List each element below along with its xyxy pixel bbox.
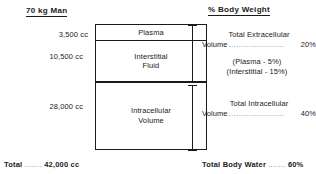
- extracellular-description-title: Total Extracellular: [202, 30, 316, 40]
- intracellular-leader-dots: ......................: [229, 109, 300, 118]
- compartment-intracellular-label: Intracellular Volume: [131, 106, 171, 125]
- compartment-interstitial-line2: Fluid: [143, 61, 160, 70]
- total-body-water-value: 60%: [288, 160, 304, 169]
- left-column-heading: 70 kg Man: [26, 6, 67, 17]
- compartment-interstitial-line1: Interstitial: [134, 52, 167, 61]
- bracket-stem: [192, 85, 193, 151]
- bracket-bottom-cap: [188, 150, 197, 151]
- total-volume-label: Total: [4, 160, 22, 169]
- intracellular-percent-row: Volume ...................... 40%: [202, 109, 316, 119]
- compartment-plasma-label: Plasma: [138, 28, 164, 37]
- extracellular-percent-label: Volume: [202, 40, 228, 50]
- total-volume-row: Total ....... 42,000 cc: [4, 160, 79, 169]
- extracellular-percent-row: Volume ...................... 20%: [202, 40, 316, 50]
- extracellular-description: Total Extracellular Volume .............…: [202, 30, 316, 50]
- compartment-intracellular-line1: Intracellular: [131, 106, 171, 115]
- bracket-bottom-cap: [188, 81, 197, 82]
- total-volume-leader-dots: .......: [24, 161, 42, 168]
- intracellular-volume-label: 28,000 cc: [13, 102, 83, 111]
- plasma-percent-note: (Plasma - 5%): [198, 57, 316, 67]
- total-body-water-row: Total Body Water ....... 60%: [202, 160, 304, 169]
- interstitial-volume-label: 10,500 cc: [13, 52, 83, 61]
- intracellular-percent-label: Volume: [202, 109, 228, 119]
- bracket-stem: [192, 25, 193, 82]
- total-volume-value: 42,000 cc: [44, 160, 79, 169]
- extracellular-leader-dots: ......................: [229, 40, 300, 49]
- total-body-water-label: Total Body Water: [202, 160, 266, 169]
- total-body-water-leader-dots: .......: [268, 161, 286, 168]
- interstitial-percent-note: (Interstitial - 15%): [198, 67, 316, 77]
- intracellular-percent-value: 40%: [301, 109, 316, 119]
- plasma-volume-label: 3,500 cc: [18, 30, 88, 39]
- compartment-intracellular-line2: Volume: [138, 116, 164, 125]
- extracellular-range-bracket: [188, 25, 197, 82]
- compartment-interstitial-label: Interstitial Fluid: [134, 52, 167, 71]
- right-column-heading: % Body Weight: [208, 5, 270, 16]
- intracellular-range-bracket: [188, 85, 197, 151]
- body-fluid-compartment-diagram: 70 kg Man % Body Weight 3,500 cc 10,500 …: [0, 0, 316, 174]
- intracellular-description-title: Total Intracellular: [202, 99, 316, 109]
- extracellular-percent-value: 20%: [301, 40, 316, 50]
- intracellular-description: Total Intracellular Volume .............…: [202, 99, 316, 119]
